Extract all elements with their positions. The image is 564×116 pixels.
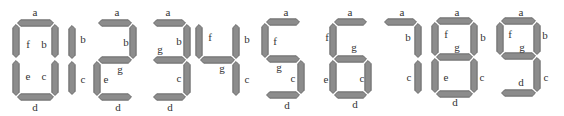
segment-label-g: g — [276, 61, 282, 73]
digit-1: bc — [69, 26, 86, 95]
digit-9: afbgdc — [497, 6, 549, 97]
segment-label-c: c — [480, 71, 485, 83]
segment-e — [13, 61, 19, 96]
digit-5: afgcd — [262, 6, 304, 111]
segment-label-c: c — [81, 73, 86, 85]
segment-g — [154, 57, 186, 63]
digit-4: fbgc — [196, 25, 250, 96]
segment-a — [385, 19, 417, 25]
segment-label-e: e — [26, 70, 31, 82]
segment-label-f: f — [508, 28, 512, 40]
segment-f — [196, 25, 202, 59]
segment-label-b: b — [405, 31, 411, 43]
segment-b — [52, 25, 58, 58]
segment-e — [432, 59, 438, 93]
segment-c — [184, 62, 190, 96]
segment-d — [335, 92, 367, 98]
segment-label-b: b — [480, 31, 486, 43]
segment-c — [365, 61, 371, 94]
segment-label-a: a — [348, 6, 353, 18]
segment-e — [94, 62, 100, 96]
segment-c — [52, 61, 58, 96]
segment-g — [335, 56, 367, 62]
segment-label-b: b — [41, 38, 47, 50]
segment-a — [18, 20, 54, 26]
segment-label-g: g — [454, 41, 460, 53]
segment-g — [99, 57, 132, 63]
segment-a — [154, 20, 186, 26]
segment-label-d: d — [32, 101, 38, 113]
digit-2: abged — [94, 6, 136, 113]
segment-label-c: c — [245, 73, 250, 85]
segment-d — [18, 94, 54, 100]
digit-3: agbcd — [154, 6, 191, 113]
segment-label-c: c — [42, 70, 47, 82]
segment-a — [335, 19, 367, 25]
segment-label-e: e — [104, 73, 109, 85]
segment-label-g: g — [351, 41, 357, 53]
segment-label-f: f — [325, 31, 329, 43]
segment-label-d: d — [115, 101, 121, 113]
digit-6: afgecd — [324, 6, 372, 110]
segment-f — [262, 24, 268, 58]
segment-d — [267, 92, 300, 98]
segment-label-e: e — [324, 73, 329, 85]
segment-label-d: d — [352, 98, 358, 110]
segment-g — [201, 57, 235, 63]
segment-a — [502, 18, 536, 24]
segment-label-c: c — [291, 72, 296, 84]
segment-label-b: b — [542, 29, 548, 41]
segment-b — [69, 26, 75, 59]
segment-c — [298, 61, 304, 94]
segment-a — [437, 18, 473, 24]
segment-c — [69, 62, 75, 95]
segment-d — [502, 90, 536, 96]
segment-label-f: f — [26, 38, 30, 50]
segment-label-g: g — [219, 62, 225, 74]
segment-b — [415, 24, 421, 58]
digit-8: afbgecd — [432, 6, 486, 108]
segment-label-g: g — [519, 41, 525, 53]
segment-label-a: a — [166, 6, 171, 18]
seven-segment-diagram: afbecdbcabgedagbcdfbgcafgcdafgecdabcafbg… — [0, 0, 564, 116]
segment-label-f: f — [444, 28, 448, 40]
segment-label-a: a — [400, 6, 405, 18]
segment-label-e: e — [444, 71, 449, 83]
segment-label-c: c — [360, 72, 365, 84]
segment-a — [267, 19, 300, 25]
segment-b — [534, 23, 540, 55]
segment-b — [471, 23, 477, 56]
segment-label-a: a — [455, 6, 460, 18]
segment-g — [502, 53, 536, 59]
digit-0: afbecd — [13, 6, 58, 113]
segment-b — [130, 25, 136, 59]
segment-label-d: d — [452, 96, 458, 108]
segment-e — [330, 61, 336, 94]
segment-f — [13, 25, 19, 58]
segment-d — [154, 94, 186, 100]
segment-c — [471, 59, 477, 93]
segment-label-c: c — [177, 72, 182, 84]
segment-label-c: c — [407, 71, 412, 83]
segment-label-a: a — [519, 6, 524, 18]
segment-label-a: a — [115, 6, 120, 18]
segment-label-b: b — [80, 33, 86, 45]
segment-f — [330, 24, 336, 58]
segment-c — [415, 61, 421, 94]
segment-label-a: a — [33, 6, 38, 18]
segment-label-d: d — [518, 76, 524, 88]
segment-label-b: b — [123, 36, 129, 48]
segment-b — [184, 25, 190, 59]
segment-c — [233, 62, 239, 96]
segment-g — [437, 54, 473, 60]
segment-label-b: b — [244, 33, 250, 45]
segment-label-b: b — [176, 35, 182, 47]
segment-label-d: d — [284, 99, 290, 111]
segment-label-f: f — [273, 35, 277, 47]
segment-d — [99, 94, 132, 100]
segment-label-d: d — [167, 101, 173, 113]
segment-c — [534, 58, 540, 92]
segment-label-f: f — [208, 31, 212, 43]
segment-label-g: g — [117, 63, 123, 75]
segment-f — [432, 23, 438, 56]
